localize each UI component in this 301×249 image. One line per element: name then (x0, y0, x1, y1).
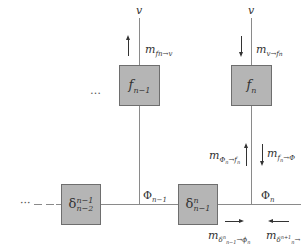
arrow-left-delta-next (272, 221, 289, 222)
factor-f-curr: fn (231, 65, 272, 106)
variable-v-left: v (136, 5, 142, 16)
edge-f-prev-to-phi-prev (139, 106, 140, 204)
message-v-to-f: mv→fn (256, 44, 283, 58)
arrow-down-v-to-f (241, 36, 242, 53)
ellipsis-top: … (90, 84, 101, 97)
message-f-to-phi: mfn→Φ (267, 148, 295, 164)
factor-f-prev-label: fn−1 (129, 77, 151, 95)
message-f-to-v: mfn→v (145, 44, 172, 58)
factor-f-prev: fn−1 (119, 65, 160, 106)
arrow-down-v-to-f-head (239, 52, 243, 57)
factor-delta-prev: δn−1n−2 (61, 184, 101, 225)
variable-phi-prev: Φn−1 (143, 190, 167, 204)
arrow-up-phi-to-f (246, 146, 247, 166)
arrow-right-delta-to-phi (225, 221, 240, 222)
arrow-down-f-to-phi-head (260, 161, 264, 166)
arrow-up-f-to-v-head (126, 35, 130, 40)
edge-v-to-f-curr (251, 18, 252, 65)
arrow-up-phi-to-f-head (244, 143, 248, 148)
edge-f-curr-to-phi-curr (251, 106, 252, 204)
edge-left-dashed (34, 204, 42, 205)
message-delta-to-phi: mδnn−1→ϕn (208, 230, 250, 246)
edge-v-to-f-prev (139, 18, 140, 65)
factor-delta-curr: δnn−1 (178, 184, 218, 225)
variable-phi-curr: Φn (261, 190, 275, 204)
message-phi-to-f: mΦn→fn (209, 150, 240, 166)
factor-delta-curr-label: δnn−1 (186, 196, 211, 213)
message-delta-next: mδn+1n→ (266, 230, 300, 246)
arrow-up-f-to-v (128, 38, 129, 56)
variable-v-right: v (248, 5, 254, 16)
factor-delta-prev-label: δn−1n−2 (69, 196, 94, 213)
edge-left-dashed (46, 204, 54, 205)
factor-f-curr-label: fn (247, 77, 257, 95)
ellipsis-left: ··· (20, 197, 31, 210)
arrow-right-delta-to-phi-head (239, 219, 244, 223)
arrow-left-delta-next-head (268, 219, 273, 223)
arrow-down-f-to-phi (262, 144, 263, 162)
edge-delta-curr-right (218, 204, 301, 205)
